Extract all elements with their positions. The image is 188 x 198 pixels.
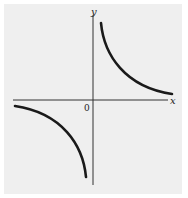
y-axis-label: y — [91, 7, 97, 17]
curve-branch-quadrant-1 — [101, 23, 172, 94]
curve-branch-quadrant-3 — [15, 106, 86, 177]
x-axis-label: x — [170, 96, 176, 106]
origin-label: 0 — [84, 104, 90, 113]
hyperbola-plot — [0, 0, 188, 198]
